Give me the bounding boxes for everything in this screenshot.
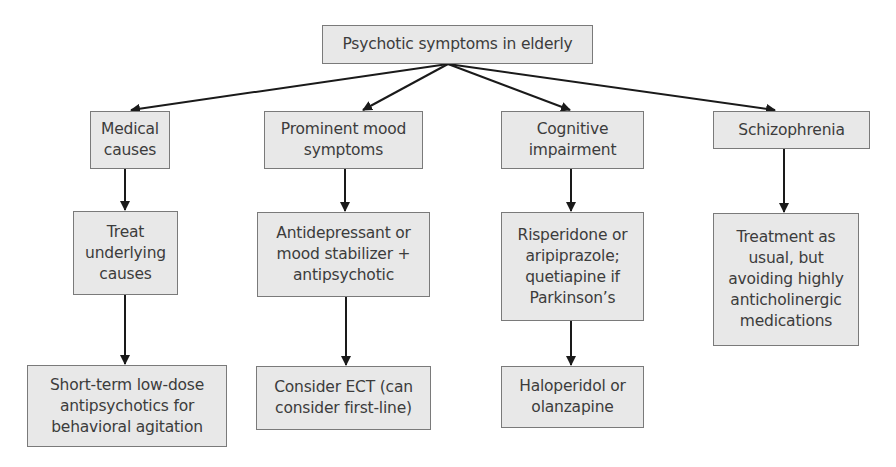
node-treatment-as-usual: Treatment as usual, but avoiding highly … — [713, 213, 859, 346]
node-root: Psychotic symptoms in elderly — [322, 25, 593, 64]
node-medical-causes: Medical causes — [90, 111, 170, 169]
node-haloperidol-olanzapine: Haloperidol or olanzapine — [501, 366, 644, 428]
node-short-term-antipsychotics: Short-term low-dose antipsychotics for b… — [27, 365, 227, 447]
node-prominent-mood-symptoms: Prominent mood symptoms — [264, 111, 423, 169]
node-risperidone: Risperidone or aripiprazole; quetiapine … — [501, 212, 644, 321]
edge-root-schizophrenia — [448, 64, 775, 110]
node-cognitive-impairment: Cognitive impairment — [501, 111, 644, 169]
node-treat-underlying-causes: Treat underlying causes — [73, 211, 178, 295]
edge-root-cognitive — [448, 64, 570, 110]
node-schizophrenia: Schizophrenia — [713, 111, 870, 149]
edge-root-medical — [131, 64, 448, 110]
node-antidepressant: Antidepressant or mood stabilizer + anti… — [257, 212, 430, 297]
node-consider-ect: Consider ECT (can consider first-line) — [256, 366, 431, 430]
